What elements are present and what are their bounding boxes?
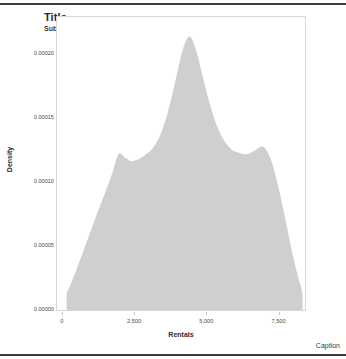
x-tick-mark (279, 312, 280, 315)
x-tick-label: 5,000 (183, 318, 229, 324)
chart-caption: Caption (316, 342, 340, 350)
x-tick-mark (134, 312, 135, 315)
x-tick-label: 2,500 (111, 318, 157, 324)
plot-panel (56, 16, 306, 311)
density-area-plot (57, 17, 305, 310)
y-tick-label: 0.00010 (8, 178, 54, 184)
x-tick-mark (62, 312, 63, 315)
y-tick-label: 0.00020 (8, 50, 54, 56)
y-tick-label: 0.00005 (8, 242, 54, 248)
y-axis-title: Density (6, 137, 13, 183)
chart-root: Title Subtitle 0.000000.000050.000100.00… (0, 0, 346, 359)
density-area-path (67, 36, 303, 310)
x-tick-mark (206, 312, 207, 315)
x-tick-label: 7,500 (256, 318, 302, 324)
x-axis-title: Rentals (56, 331, 306, 338)
y-tick-label: 0.00000 (8, 306, 54, 312)
x-tick-label: 0 (39, 318, 85, 324)
y-tick-label: 0.00015 (8, 114, 54, 120)
